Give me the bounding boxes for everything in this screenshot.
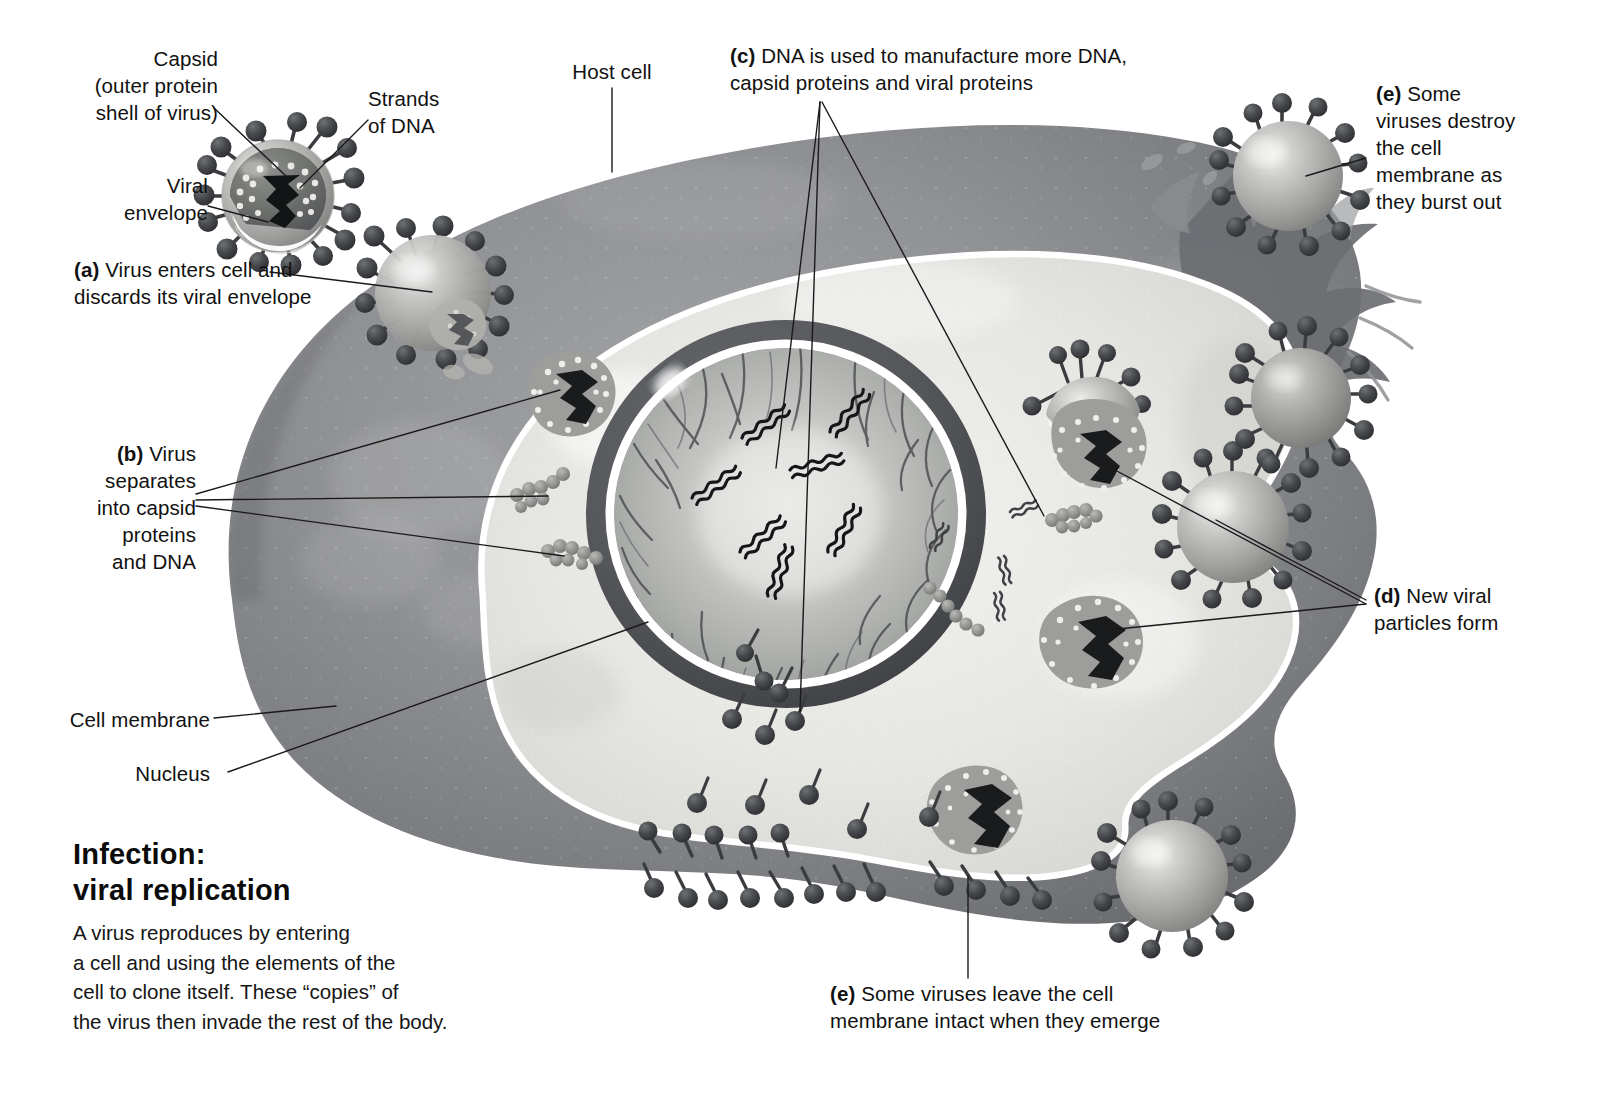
nucleus <box>586 320 986 710</box>
label-host-cell: Host cell <box>552 58 672 85</box>
step-prefix: (e) <box>1376 82 1401 105</box>
label-nucleus: Nucleus <box>60 760 210 787</box>
label-strands-of-dna: Strands of DNA <box>368 85 498 139</box>
label-step-d: (d) New viral particles form <box>1374 582 1554 636</box>
label-step-c: (c) DNA is used to manufacture more DNA,… <box>730 42 1130 96</box>
figure-title-line1: Infection: <box>73 836 291 872</box>
label-step-a: (a) Virus enters cell and discards its v… <box>74 256 354 310</box>
label-step-e-intact: (e) Some viruses leave the cell membrane… <box>830 980 1230 1034</box>
assembling-virus-4 <box>927 765 1023 854</box>
label-step-e-burst: (e) Some viruses destroy the cell membra… <box>1376 80 1556 215</box>
capsid-blob-left <box>528 351 616 436</box>
step-prefix: (d) <box>1374 584 1400 607</box>
label-cell-membrane: Cell membrane <box>40 706 210 733</box>
label-viral-envelope: Viral envelope <box>60 172 208 226</box>
step-prefix: (e) <box>830 982 855 1005</box>
step-prefix: (c) <box>730 44 755 67</box>
label-capsid: Capsid (outer protein shell of virus) <box>60 45 218 126</box>
figure-title-line2: viral replication <box>73 872 291 908</box>
figure-title: Infection: viral replication <box>73 836 291 908</box>
label-step-b: (b) Virus separates into capsid proteins… <box>40 440 196 575</box>
step-prefix: (a) <box>74 258 99 281</box>
figure-description: A virus reproduces by entering a cell an… <box>73 918 448 1036</box>
figure-canvas: Capsid (outer protein shell of virus) St… <box>0 0 1617 1108</box>
step-prefix: (b) <box>117 442 143 465</box>
